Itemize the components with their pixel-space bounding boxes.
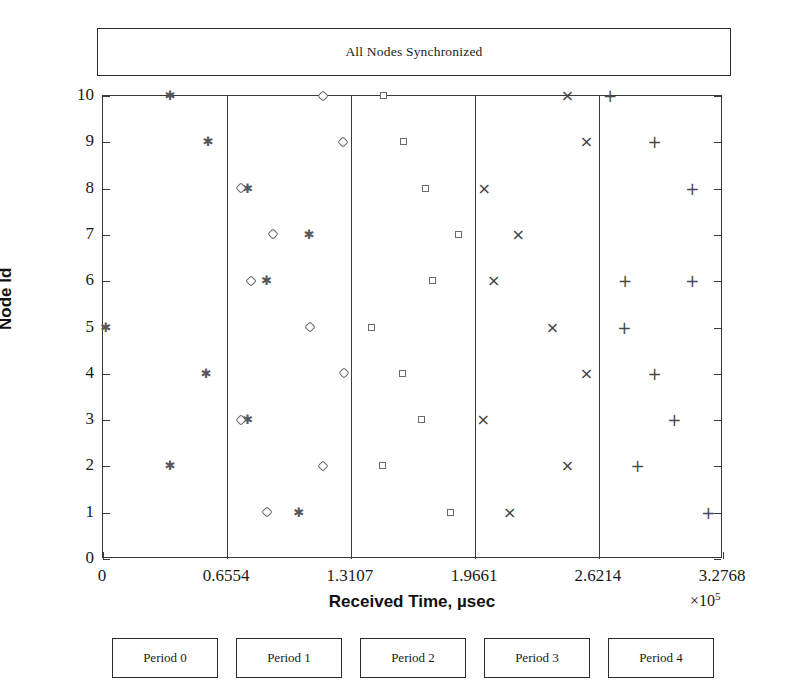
data-point-marker: ✱ bbox=[301, 227, 317, 243]
data-point-marker: × bbox=[502, 505, 518, 521]
data-point-marker: ✱ bbox=[198, 366, 214, 382]
period-label-text: Period 4 bbox=[639, 650, 683, 666]
y-axis-tick-right bbox=[714, 142, 721, 143]
multiplier-exponent: 5 bbox=[715, 590, 721, 602]
data-point-marker bbox=[315, 458, 331, 474]
data-point-marker: + bbox=[684, 181, 700, 197]
x-axis-tick-label: 1.9661 bbox=[451, 566, 498, 586]
data-point-marker bbox=[425, 273, 441, 289]
period-label-text: Period 1 bbox=[267, 650, 311, 666]
x-axis-tick-label: 2.6214 bbox=[575, 566, 622, 586]
y-axis-tick-label: 9 bbox=[56, 131, 94, 151]
x-axis-tick bbox=[599, 552, 600, 559]
data-point-marker bbox=[375, 458, 391, 474]
x-axis-tick bbox=[475, 552, 476, 559]
y-axis-title: Node Id bbox=[0, 268, 16, 330]
x-axis-tick bbox=[351, 552, 352, 559]
y-axis-tick bbox=[103, 559, 110, 560]
x-axis-tick-label: 0.6554 bbox=[203, 566, 250, 586]
data-point-marker bbox=[265, 227, 281, 243]
y-axis-tick-right bbox=[714, 466, 721, 467]
y-axis-tick-right bbox=[714, 235, 721, 236]
period-separator bbox=[599, 96, 600, 557]
x-axis-tick bbox=[103, 552, 104, 559]
chart-title-text: All Nodes Synchronized bbox=[345, 44, 482, 60]
x-axis-tick-label: 3.2768 bbox=[699, 566, 746, 586]
data-point-marker: × bbox=[578, 134, 594, 150]
y-axis-tick-label: 3 bbox=[56, 409, 94, 429]
data-point-marker: ✱ bbox=[162, 88, 178, 104]
plot-area: ✱✱✱✱✱✱✱✱✱✱××××××××××++++++++++ bbox=[102, 95, 722, 558]
period-separator bbox=[227, 96, 228, 557]
y-axis-tick-right bbox=[714, 559, 721, 560]
y-axis-tick-label: 2 bbox=[56, 455, 94, 475]
y-axis-tick-label: 1 bbox=[56, 502, 94, 522]
period-label-text: Period 2 bbox=[391, 650, 435, 666]
data-point-marker: + bbox=[602, 88, 618, 104]
data-point-marker: ✱ bbox=[200, 134, 216, 150]
period-label-box-4: Period 4 bbox=[608, 638, 714, 678]
data-point-marker: ✱ bbox=[98, 320, 114, 336]
data-point-marker: × bbox=[578, 366, 594, 382]
data-point-marker bbox=[244, 273, 260, 289]
y-axis-tick-label: 7 bbox=[56, 224, 94, 244]
y-axis-tick bbox=[103, 96, 110, 97]
x-axis-tick bbox=[227, 552, 228, 559]
data-point-marker: + bbox=[647, 134, 663, 150]
data-point-marker: × bbox=[544, 320, 560, 336]
y-axis-tick bbox=[103, 281, 110, 282]
data-point-marker: + bbox=[617, 273, 633, 289]
data-point-marker bbox=[315, 88, 331, 104]
period-label-text: Period 3 bbox=[515, 650, 559, 666]
x-axis-multiplier: ×105 bbox=[690, 590, 721, 610]
multiplier-base: 10 bbox=[699, 592, 715, 609]
data-point-marker bbox=[336, 366, 352, 382]
data-point-marker: + bbox=[647, 366, 663, 382]
y-axis-tick-label: 10 bbox=[56, 85, 94, 105]
period-label-box-0: Period 0 bbox=[112, 638, 218, 678]
data-point-marker: + bbox=[684, 273, 700, 289]
data-point-marker bbox=[335, 134, 351, 150]
data-point-marker bbox=[302, 320, 318, 336]
chart-title-box: All Nodes Synchronized bbox=[97, 28, 731, 76]
data-point-marker bbox=[233, 181, 249, 197]
data-point-marker: + bbox=[700, 505, 716, 521]
y-axis-tick bbox=[103, 513, 110, 514]
y-axis-tick-right bbox=[714, 328, 721, 329]
data-point-marker: + bbox=[666, 412, 682, 428]
figure-canvas: All Nodes Synchronized Node Id ✱✱✱✱✱✱✱✱✱… bbox=[0, 0, 797, 691]
data-point-marker: + bbox=[630, 458, 646, 474]
data-point-marker bbox=[233, 412, 249, 428]
data-point-marker: × bbox=[486, 273, 502, 289]
data-point-marker bbox=[443, 505, 459, 521]
y-axis-tick bbox=[103, 189, 110, 190]
y-axis-tick-label: 5 bbox=[56, 317, 94, 337]
y-axis-tick-right bbox=[714, 420, 721, 421]
x-axis-tick-label: 0 bbox=[98, 566, 107, 586]
x-axis-tick-label: 1.3107 bbox=[327, 566, 374, 586]
period-separator bbox=[351, 96, 352, 557]
data-point-marker: ✱ bbox=[162, 458, 178, 474]
data-point-marker: × bbox=[510, 227, 526, 243]
y-axis-tick-right bbox=[714, 96, 721, 97]
data-point-marker bbox=[395, 366, 411, 382]
data-point-marker: ✱ bbox=[259, 273, 275, 289]
y-axis-tick-right bbox=[714, 281, 721, 282]
y-axis-tick bbox=[103, 374, 110, 375]
y-axis-tick-label: 0 bbox=[56, 548, 94, 568]
y-axis-tick bbox=[103, 420, 110, 421]
data-point-marker bbox=[364, 320, 380, 336]
data-point-marker bbox=[396, 134, 412, 150]
period-label-box-1: Period 1 bbox=[236, 638, 342, 678]
data-point-marker bbox=[451, 227, 467, 243]
multiplier-symbol: × bbox=[690, 592, 699, 609]
data-point-marker bbox=[418, 181, 434, 197]
data-point-marker bbox=[260, 505, 276, 521]
y-axis-tick-right bbox=[714, 189, 721, 190]
data-point-marker bbox=[376, 88, 392, 104]
y-axis-tick-label: 6 bbox=[56, 270, 94, 290]
data-point-marker: + bbox=[616, 320, 632, 336]
period-separator bbox=[475, 96, 476, 557]
period-label-text: Period 0 bbox=[143, 650, 187, 666]
x-axis-title: Received Time, µsec bbox=[102, 592, 722, 612]
